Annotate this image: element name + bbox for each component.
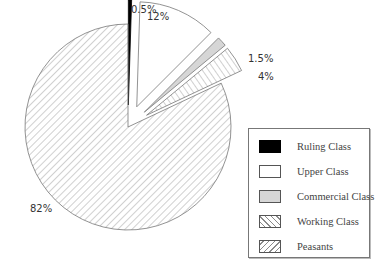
legend-label: Ruling Class bbox=[297, 141, 351, 152]
legend-item-peasants: Peasants bbox=[259, 239, 333, 253]
swatch-diagonal-hatch bbox=[259, 240, 281, 253]
swatch-solid-black bbox=[259, 140, 281, 153]
swatch-hatch bbox=[259, 215, 281, 228]
slice-percent-label: 12% bbox=[147, 11, 169, 22]
legend-label: Peasants bbox=[297, 241, 333, 252]
legend-label: Working Class bbox=[297, 216, 359, 227]
slice-percent-label: 82% bbox=[30, 203, 52, 214]
legend-item-ruling-class: Ruling Class bbox=[259, 139, 351, 153]
pie-slice-peasants bbox=[25, 24, 231, 230]
legend-label: Upper Class bbox=[297, 166, 349, 177]
swatch-white bbox=[259, 165, 281, 178]
legend-label: Commercial Class bbox=[297, 191, 374, 202]
slice-percent-label: 1.5% bbox=[248, 53, 273, 64]
slice-percent-label: 4% bbox=[258, 71, 274, 82]
legend-item-commercial-class: Commercial Class bbox=[259, 189, 374, 203]
legend-item-working-class: Working Class bbox=[259, 214, 359, 228]
pie-slice-ruling-class bbox=[128, 0, 131, 105]
legend-item-upper-class: Upper Class bbox=[259, 164, 349, 178]
swatch-gray bbox=[259, 190, 281, 203]
chart-legend: Ruling Class Upper Class Commercial Clas… bbox=[248, 128, 370, 258]
